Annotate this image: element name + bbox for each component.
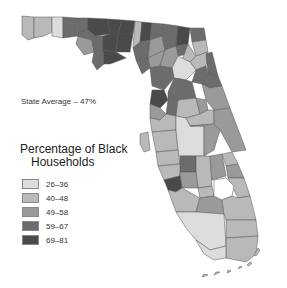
county-hillsborough [152,130,178,152]
county-holmes [76,18,88,32]
legend-item: 59–67 [22,220,68,233]
legend: 26–36 40–48 49–58 59–67 69–81 [22,178,68,248]
county-broward [226,220,258,238]
county-okaloosa [52,17,63,38]
legend-label: 69–81 [46,236,68,245]
county-hardee [180,156,196,172]
legend-item: 49–58 [22,206,68,219]
county-gulf [92,50,104,70]
legend-label: 49–58 [46,208,68,217]
legend-swatch [22,221,39,231]
county-dade [226,236,258,262]
legend-item: 26–36 [22,178,68,191]
legend-label: 26–36 [46,180,68,189]
county-santa-rosa [34,17,52,38]
legend-swatch [22,207,39,217]
county-liberty [103,34,118,52]
legend-item: 40–48 [22,192,68,205]
legend-label: 40–48 [46,194,68,203]
county-nassau [190,28,206,42]
county-baker [176,26,190,46]
legend-title-line2: Households [20,156,127,169]
county-calhoun [92,36,103,52]
county-wakulla [116,34,133,52]
county-escambia [22,16,34,40]
legend-title-line1: Percentage of Black [20,142,127,156]
county-indian-river [222,152,238,166]
county-lee [168,188,200,212]
county-st-lucie [226,164,244,178]
county-dixie [136,58,150,74]
county-pinellas [140,132,150,152]
legend-item: 69–81 [22,234,68,247]
county-desoto [180,172,198,188]
legend-label: 59–67 [46,222,68,231]
legend-swatch [22,193,39,203]
county-highlands [196,156,212,188]
county-manatee [156,150,180,166]
legend-swatch [22,179,39,189]
legend-swatch [22,235,39,245]
legend-title: Percentage of Black Households [20,143,127,169]
county-walton [63,17,78,38]
county-palm-beach [222,196,256,220]
state-average-label: State Average – 47% [21,97,96,106]
